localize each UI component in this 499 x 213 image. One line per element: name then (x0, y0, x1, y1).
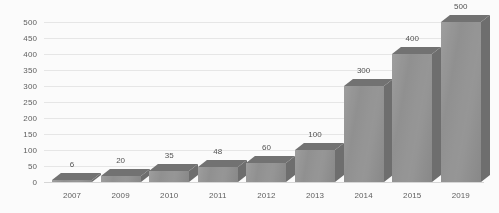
bar-value-label: 48 (198, 147, 238, 156)
y-axis-tick-label: 0 (32, 178, 37, 187)
bar-column: 400 (392, 47, 432, 182)
bar-column: 35 (149, 164, 189, 182)
bar-top-face (101, 169, 150, 176)
plot-area: 620354860100300400500 (44, 22, 494, 182)
bar-front-face (52, 180, 92, 182)
y-axis-tick-label: 100 (23, 146, 37, 155)
gridline (44, 182, 484, 183)
y-axis-tick-label: 450 (23, 34, 37, 43)
bar-value-label: 60 (246, 143, 286, 152)
y-axis: 050100150200250300350400450500 (0, 0, 44, 213)
bar-side-face (481, 15, 490, 182)
gridline (44, 22, 484, 23)
bar-value-label: 300 (344, 66, 384, 75)
x-axis-tick-label: 2007 (52, 191, 92, 200)
bar-front-face (246, 163, 286, 182)
bar-value-label: 35 (149, 151, 189, 160)
bar-column: 300 (344, 79, 384, 182)
y-axis-tick-label: 400 (23, 50, 37, 59)
x-axis-tick-label: 2015 (392, 191, 432, 200)
bar-front-face (198, 167, 238, 182)
bar-front-face (149, 171, 189, 182)
x-axis-tick-label: 2010 (149, 191, 189, 200)
bar-column: 20 (101, 169, 141, 182)
bar-value-label: 20 (101, 156, 141, 165)
bar-column: 500 (441, 15, 481, 182)
bar-value-label: 500 (441, 2, 481, 11)
bar-column: 48 (198, 160, 238, 182)
y-axis-tick-label: 250 (23, 98, 37, 107)
bar-front-face (295, 150, 335, 182)
bar-front-face (441, 22, 481, 182)
y-axis-tick-label: 200 (23, 114, 37, 123)
y-axis-tick-label: 300 (23, 82, 37, 91)
y-axis-tick-label: 50 (28, 162, 37, 171)
bar-chart: 050100150200250300350400450500 620354860… (0, 0, 499, 213)
x-axis-tick-label: 2009 (101, 191, 141, 200)
y-axis-tick-label: 500 (23, 18, 37, 27)
bar-value-label: 100 (295, 130, 335, 139)
bar-top-face (344, 79, 393, 86)
bar-value-label: 6 (52, 160, 92, 169)
bar-top-face (198, 160, 247, 167)
x-axis-tick-label: 2014 (344, 191, 384, 200)
x-axis-tick-label: 2013 (295, 191, 335, 200)
bar-front-face (344, 86, 384, 182)
bar-column: 6 (52, 173, 92, 182)
bar-value-label: 400 (392, 34, 432, 43)
bar-front-face (392, 54, 432, 182)
bar-column: 100 (295, 143, 335, 182)
x-axis-tick-label: 2012 (246, 191, 286, 200)
bar-column: 60 (246, 156, 286, 182)
bar-front-face (101, 176, 141, 182)
x-axis-tick-label: 2019 (441, 191, 481, 200)
y-axis-tick-label: 150 (23, 130, 37, 139)
y-axis-tick-label: 350 (23, 66, 37, 75)
x-axis-tick-label: 2011 (198, 191, 238, 200)
